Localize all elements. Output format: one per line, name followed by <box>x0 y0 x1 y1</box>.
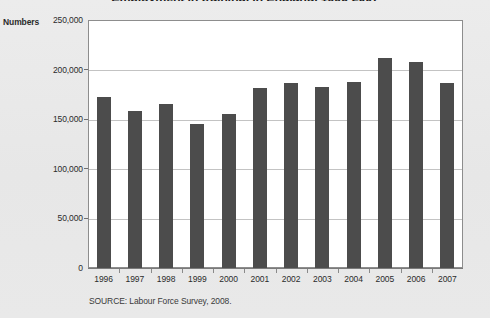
x-axis-tick-label: 2006 <box>401 274 432 284</box>
x-axis-tick-label: 2005 <box>369 274 400 284</box>
y-axis-tick-label: 200,000 <box>0 65 83 75</box>
gridline <box>89 219 462 220</box>
y-axis-tick-label: 150,000 <box>0 114 83 124</box>
gridline <box>89 70 462 71</box>
x-axis-tick-mark <box>182 269 183 273</box>
gridline <box>89 120 462 121</box>
x-axis-tick-label: 2004 <box>338 274 369 284</box>
y-axis-tick-label: 0 <box>0 263 83 273</box>
x-axis-tick-label: 1998 <box>151 274 182 284</box>
x-axis-tick-mark <box>244 269 245 273</box>
x-axis-tick-mark <box>401 269 402 273</box>
chart-page: Employment in training, in England, 1996… <box>0 0 490 318</box>
x-axis-tick-mark <box>338 269 339 273</box>
x-axis-tick-label: 1997 <box>119 274 150 284</box>
x-axis-tick-label: 1996 <box>88 274 119 284</box>
y-axis-tick-label: 100,000 <box>0 164 83 174</box>
x-axis-tick-label: 2007 <box>432 274 463 284</box>
x-axis-tick-mark <box>151 269 152 273</box>
x-axis-tick-label: 2002 <box>276 274 307 284</box>
x-axis-tick-mark <box>307 269 308 273</box>
y-axis-tick-mark <box>84 218 88 219</box>
plot-area <box>88 20 463 268</box>
gridline <box>89 169 462 170</box>
x-axis-tick-label: 2003 <box>307 274 338 284</box>
x-axis-tick-mark <box>432 269 433 273</box>
x-axis-tick-mark <box>369 269 370 273</box>
chart-title: Employment in training, in England, 1996… <box>0 0 490 1</box>
x-axis-tick-label: 2000 <box>213 274 244 284</box>
y-axis-tick-mark <box>84 69 88 70</box>
x-axis-tick-mark <box>276 269 277 273</box>
x-axis-tick-mark <box>119 269 120 273</box>
y-axis-tick-mark <box>84 119 88 120</box>
source-note: SOURCE: Labour Force Survey, 2008. <box>89 296 231 306</box>
y-axis-tick-mark <box>84 168 88 169</box>
y-axis-tick-label: 250,000 <box>0 15 83 25</box>
x-axis-tick-label: 2001 <box>244 274 275 284</box>
x-axis-tick-label: 1999 <box>182 274 213 284</box>
y-axis-tick-label: 50,000 <box>0 213 83 223</box>
x-axis-tick-mark <box>213 269 214 273</box>
